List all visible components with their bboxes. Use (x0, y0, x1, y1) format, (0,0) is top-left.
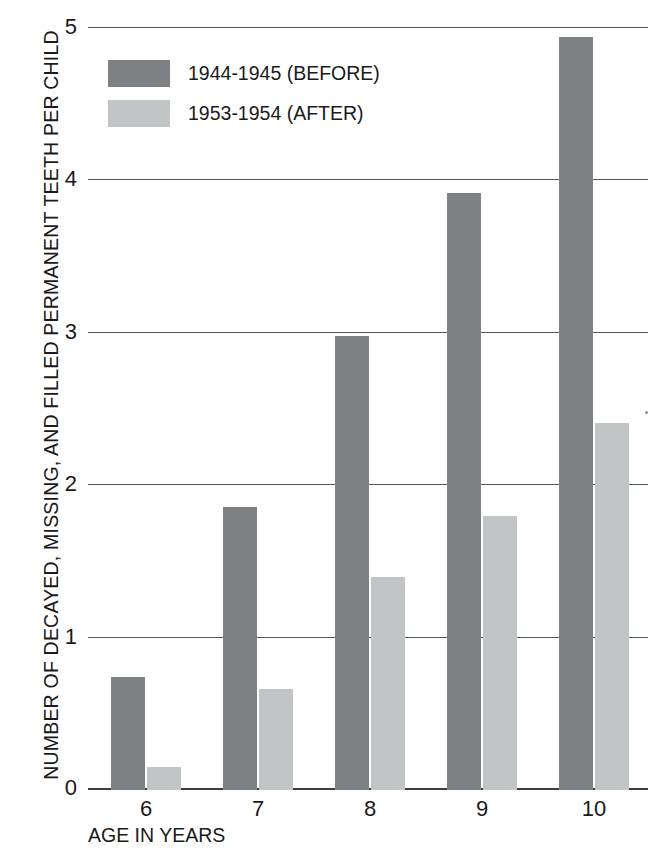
bar (447, 193, 481, 790)
bar (595, 423, 629, 790)
chart-legend: 1944-1945 (BEFORE)1953-1954 (AFTER) (108, 60, 380, 127)
y-tick-label: 0 (65, 777, 77, 799)
bar-chart: NUMBER OF DECAYED, MISSING, AND FILLED P… (0, 0, 668, 856)
bar (371, 577, 405, 790)
x-tick-label: 8 (364, 798, 376, 820)
plot-area: 012345 678910 (88, 28, 648, 790)
bar-group: 7 (200, 28, 312, 790)
legend-label: 1944-1945 (BEFORE) (188, 64, 380, 84)
x-tick-label: 7 (252, 798, 264, 820)
bar (335, 336, 369, 790)
bar (147, 767, 181, 790)
x-tick-label: 6 (140, 798, 152, 820)
bar-group: 9 (424, 28, 536, 790)
bar (483, 516, 517, 790)
scan-artifact-speck (645, 411, 648, 414)
legend-item: 1944-1945 (BEFORE) (108, 60, 380, 87)
bar (223, 507, 257, 790)
x-axis-title: AGE IN YEARS (88, 826, 225, 846)
bars-layer: 678910 (88, 28, 648, 790)
bar (559, 37, 593, 790)
y-axis-title: NUMBER OF DECAYED, MISSING, AND FILLED P… (34, 10, 68, 800)
legend-swatch-after (108, 100, 170, 127)
x-tick-label: 9 (476, 798, 488, 820)
y-tick-label: 4 (65, 168, 77, 190)
bar-group: 10 (536, 28, 648, 790)
y-tick-label: 3 (65, 321, 77, 343)
legend-label: 1953-1954 (AFTER) (188, 104, 364, 124)
bar (111, 677, 145, 790)
bar (259, 689, 293, 790)
bar-group: 8 (312, 28, 424, 790)
y-tick-label: 2 (65, 473, 77, 495)
y-tick-label: 1 (65, 626, 77, 648)
bar-group: 6 (88, 28, 200, 790)
y-tick-label: 5 (65, 16, 77, 38)
legend-swatch-before (108, 60, 170, 87)
x-tick-label: 10 (582, 798, 606, 820)
legend-item: 1953-1954 (AFTER) (108, 100, 380, 127)
